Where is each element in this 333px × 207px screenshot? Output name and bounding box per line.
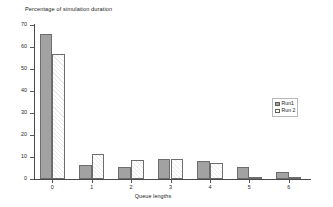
bar-run1-cat3 <box>158 159 171 179</box>
y-axis-tick-label-text: 60 <box>8 44 27 49</box>
y-axis-tick-label-text: 40 <box>8 88 27 93</box>
y-axis-tick-label-text: 0 <box>8 176 27 181</box>
x-axis-tick-label: 6 <box>280 185 298 190</box>
y-axis-tick-label: 40 <box>8 88 27 94</box>
legend-label-run1: Run1 <box>282 101 294 106</box>
x-axis-tick-label: 3 <box>162 185 180 190</box>
x-axis-tick-label: 5 <box>240 185 258 190</box>
bar-run2-cat1 <box>92 154 105 179</box>
y-axis-tick <box>30 179 34 180</box>
x-axis-tick <box>210 180 211 183</box>
y-axis-tick-label-text: 70 <box>8 22 27 27</box>
x-axis-tick-label: 1 <box>83 185 101 190</box>
y-axis-tick-label: 20 <box>8 132 27 138</box>
bar-run1-cat4 <box>197 161 210 179</box>
y-axis-tick-label: 0 <box>8 176 27 182</box>
y-axis-tick <box>30 69 34 70</box>
x-axis-tick <box>171 180 172 183</box>
x-axis-tick-label: 4 <box>201 185 219 190</box>
y-axis-tick-label: 50 <box>8 66 27 72</box>
x-axis-tick <box>289 180 290 183</box>
x-axis-tick <box>131 180 132 183</box>
x-axis-tick-label: 2 <box>122 185 140 190</box>
bar-run1-cat6 <box>276 172 289 179</box>
bar-run2-cat2 <box>131 160 144 179</box>
bar-run2-cat6 <box>289 177 302 179</box>
chart-title: Percentage of simulation duration <box>25 6 112 12</box>
x-axis-line <box>34 179 311 180</box>
bar-chart: Percentage of simulation duration 010203… <box>0 0 333 207</box>
chart-legend: Run1 Run 2 <box>272 98 298 117</box>
bar-run1-cat0 <box>40 34 53 179</box>
x-axis-title: Queue lengths <box>113 193 193 199</box>
y-axis-tick-label: 10 <box>8 154 27 160</box>
y-axis-tick <box>30 135 34 136</box>
bar-run1-cat1 <box>79 165 92 179</box>
y-axis-tick <box>30 47 34 48</box>
bar-run2-cat3 <box>171 159 184 179</box>
y-axis-tick <box>30 91 34 92</box>
bar-run2-cat5 <box>249 177 262 179</box>
y-axis-tick <box>30 157 34 158</box>
y-axis-tick-label: 60 <box>8 44 27 50</box>
bar-run2-cat0 <box>52 54 65 179</box>
bar-run1-cat2 <box>118 167 131 179</box>
y-axis-tick-label-text: 10 <box>8 154 27 159</box>
solid-gray-swatch-icon <box>275 102 280 107</box>
bar-run2-cat4 <box>210 163 223 179</box>
x-axis-tick <box>52 180 53 183</box>
y-axis-tick <box>30 113 34 114</box>
y-axis-tick <box>30 25 34 26</box>
x-axis-tick <box>92 180 93 183</box>
legend-item-run2: Run 2 <box>275 108 295 115</box>
y-axis-tick-label-text: 20 <box>8 132 27 137</box>
x-axis-tick-label: 0 <box>43 185 61 190</box>
bars-layer <box>35 25 311 179</box>
bar-run1-cat5 <box>237 167 250 179</box>
legend-label-run2: Run 2 <box>282 108 296 113</box>
hatched-white-swatch-icon <box>275 109 280 114</box>
y-axis-tick-label: 70 <box>8 22 27 28</box>
x-axis-tick <box>249 180 250 183</box>
y-axis-tick-label-text: 50 <box>8 66 27 71</box>
y-axis-tick-label-text: 30 <box>8 110 27 115</box>
y-axis-tick-label: 30 <box>8 110 27 116</box>
